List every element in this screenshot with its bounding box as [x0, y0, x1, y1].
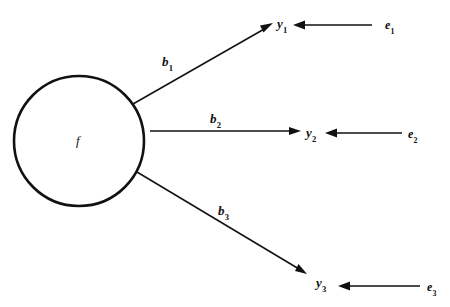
- loading-arrow-b2: [150, 127, 301, 135]
- factor-path-diagram: f b1 b2 b3 y1 y2 y3 e1 e2 e3: [0, 0, 450, 307]
- diagram-canvas: [0, 0, 450, 307]
- subscript: 2: [312, 134, 316, 144]
- indicator-label-y1: y1: [277, 17, 287, 33]
- subscript: 1: [169, 63, 173, 73]
- loading-arrow-b1: [133, 23, 273, 104]
- factor-label: f: [76, 134, 80, 147]
- error-arrow-e2: [325, 129, 402, 138]
- subscript: 3: [322, 284, 326, 294]
- loading-arrow-b3: [137, 172, 307, 274]
- error-label-e1: e1: [385, 19, 394, 34]
- subscript: 1: [390, 27, 394, 36]
- error-label-e2: e2: [408, 128, 417, 143]
- subscript: 3: [432, 289, 436, 298]
- loading-label-b3: b3: [218, 204, 229, 220]
- subscript: 3: [225, 212, 229, 222]
- subscript: 2: [217, 120, 221, 130]
- indicator-label-y2: y2: [306, 126, 316, 142]
- loading-label-b1: b1: [162, 55, 173, 71]
- error-arrow-e1: [293, 21, 372, 30]
- error-label-e3: e3: [427, 281, 436, 296]
- loading-label-b2: b2: [210, 112, 221, 128]
- subscript: 2: [413, 136, 417, 145]
- indicator-label-y3: y3: [316, 276, 326, 292]
- subscript: 1: [283, 25, 287, 35]
- error-arrow-e3: [338, 282, 420, 291]
